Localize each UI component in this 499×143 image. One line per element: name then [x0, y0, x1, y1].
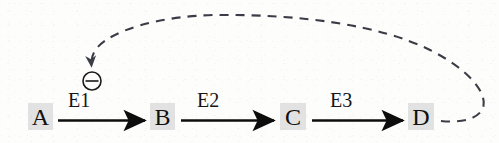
node-b[interactable]: B	[150, 103, 175, 130]
edge-label-e3: E3	[330, 90, 352, 110]
edge-label-e2: E2	[197, 90, 219, 110]
diagram-canvas: A B C D E1 E2 E3	[0, 0, 499, 143]
node-c[interactable]: C	[280, 103, 306, 130]
node-a[interactable]: A	[28, 103, 53, 130]
node-d-label: D	[412, 105, 429, 129]
node-d[interactable]: D	[408, 103, 434, 130]
edge-label-e1: E1	[68, 90, 90, 110]
node-a-label: A	[32, 105, 49, 129]
node-b-label: B	[154, 105, 170, 129]
node-c-label: C	[285, 105, 301, 129]
